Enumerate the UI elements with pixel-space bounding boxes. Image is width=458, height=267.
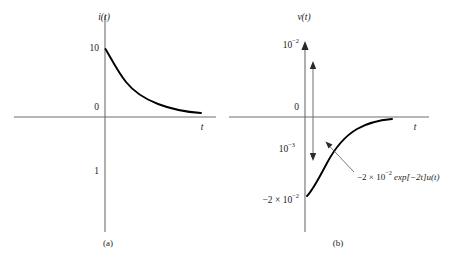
chart-b-x-axis-label: t	[414, 122, 417, 132]
panel-a: i(t) t 10 0 1	[0, 0, 229, 267]
chart-b-impulse-up-arrowhead	[310, 61, 316, 69]
chart-b-tick-mid: 10−3	[279, 142, 295, 154]
chart-b-tick-mid-exp: −3	[288, 142, 295, 149]
chart-b-tick-top: 10−2	[283, 38, 299, 50]
chart-b-annotation-exp: −2	[385, 170, 392, 177]
chart-b-impulse-down-arrowhead	[310, 153, 316, 161]
chart-b-svg: v(t) t 10−2 0 10−3 −2 × 10−2 −2 × 10−2ex…	[229, 0, 458, 267]
chart-b-annotation-base: −2 × 10	[357, 172, 386, 182]
chart-b-tick-bottom: −2 × 10−2	[262, 193, 299, 205]
chart-a-tick-10: 10	[90, 43, 100, 53]
chart-a-tick-0: 0	[94, 102, 99, 112]
chart-a-svg: i(t) t 10 0 1	[0, 0, 229, 267]
caption-a: (a)	[88, 238, 128, 248]
chart-b-annotation-arrowhead	[326, 142, 333, 149]
chart-b-y-axis-label: v(t)	[297, 12, 310, 23]
caption-b: (b)	[318, 238, 358, 248]
chart-b-tick-mid-base: 10	[279, 144, 289, 154]
chart-b-tick-bottom-base: −2 × 10	[262, 195, 292, 205]
chart-b-tick-top-exp: −2	[292, 38, 299, 45]
chart-b-annotation-tail: exp[−2t]u(t)	[394, 172, 440, 182]
chart-a-y-axis-label: i(t)	[98, 12, 110, 23]
figure-container: i(t) t 10 0 1	[0, 0, 458, 267]
chart-b-annotation-leader	[328, 144, 355, 172]
chart-b-curve	[307, 119, 392, 196]
chart-a-tick-1: 1	[94, 166, 99, 176]
panel-b: v(t) t 10−2 0 10−3 −2 × 10−2 −2 × 10−2ex…	[229, 0, 458, 267]
chart-b-annotation: −2 × 10−2exp[−2t]u(t)	[357, 170, 440, 182]
chart-a-curve	[106, 49, 202, 113]
chart-a-x-axis-label: t	[201, 122, 204, 132]
chart-b-y-axis-arrowhead	[301, 41, 308, 50]
chart-b-tick-0: 0	[294, 102, 299, 112]
chart-b-tick-bottom-exp: −2	[292, 193, 299, 200]
chart-b-tick-top-base: 10	[283, 40, 293, 50]
